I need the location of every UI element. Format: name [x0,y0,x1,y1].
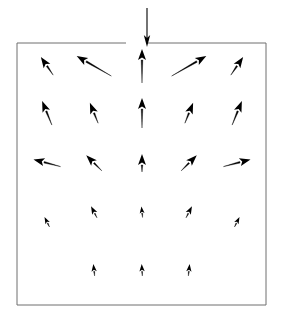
arrow-head [138,154,146,165]
arrow-tail [142,213,144,217]
arrow-tail [230,66,237,76]
velocity-vector-r3-c3 [138,154,146,172]
velocity-vector-r4-c5 [232,216,241,228]
arrow-tail [94,213,97,218]
arrow-tail [44,161,61,167]
vector-field-plot [0,0,283,322]
arrow-tail [93,162,102,171]
inlet-jet-arrow [144,8,150,47]
arrow-head [38,55,51,69]
arrow-head [86,101,98,114]
velocity-vector-r1-c5 [228,55,247,78]
arrow-head [186,205,195,215]
arrow-head [234,99,246,112]
arrow-head [91,264,97,272]
arrow-tail [94,271,96,276]
arrow-head [138,98,146,109]
arrow-tail [223,161,240,167]
arrow-head [234,216,241,224]
velocity-vector-r1-c4 [170,53,209,80]
arrow-head [239,156,252,167]
velocity-vector-r1-c3 [138,49,146,83]
velocity-vector-r2-c1 [38,99,55,126]
velocity-vector-r4-c2 [89,205,100,219]
velocity-vector-r3-c1 [32,156,61,171]
arrow-tail [47,223,50,227]
vector-layer [32,49,251,276]
velocity-vector-r2-c3 [138,98,146,128]
arrow-head [42,216,49,224]
velocity-vector-r2-c5 [228,99,245,126]
velocity-vector-r2-c2 [86,101,102,124]
arrow-tail [46,66,53,76]
arrow-tail [186,213,189,218]
arrow-head [186,264,192,272]
arrow-head [138,49,146,60]
arrow-head [139,206,145,213]
velocity-vector-r1-c2 [75,53,114,80]
velocity-vector-r4-c3 [139,206,145,217]
velocity-vector-r4-c4 [184,205,195,219]
velocity-vector-r1-c1 [38,55,57,78]
arrow-head [234,55,247,69]
arrow-tail [231,111,238,126]
arrow-tail [46,111,53,126]
arrow-tail [184,113,190,124]
arrow-tail [171,61,197,77]
velocity-vector-r3-c5 [222,156,251,171]
arrow-tail [93,113,99,124]
arrow-head [32,156,45,167]
arrow-head [195,53,209,65]
arrow-tail [141,109,143,128]
arrow-tail [142,271,143,276]
arrow-head [185,101,197,114]
velocity-vector-r3-c4 [178,152,199,173]
arrow-head [38,99,50,112]
arrow-head [89,205,98,215]
arrow-tail [181,162,190,171]
velocity-vector-r2-c4 [181,101,197,124]
velocity-vector-r5-c2 [91,264,98,276]
arrow-head [139,264,145,272]
vector-field-figure [0,0,283,322]
velocity-vector-r3-c2 [83,152,104,173]
arrow-tail [188,271,190,276]
arrow-head [75,53,89,65]
arrow-tail [234,223,237,227]
arrow-tail [86,61,112,77]
arrow-tail [141,165,143,172]
velocity-vector-r4-c1 [42,216,51,228]
arrow-tail [141,60,143,83]
velocity-vector-r5-c4 [186,264,193,276]
velocity-vector-r5-c3 [139,264,145,276]
